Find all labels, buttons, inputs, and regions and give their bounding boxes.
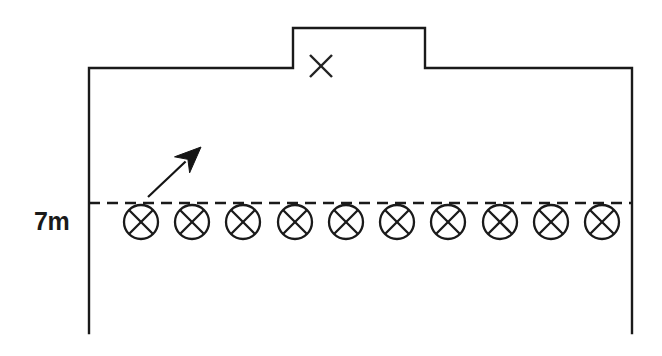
- x-marker-icon: [310, 55, 332, 77]
- conductor-symbol: [431, 205, 465, 239]
- enclosure-outline: [89, 28, 632, 333]
- height-label: 7m: [34, 207, 69, 235]
- conductor-row: [124, 205, 619, 239]
- conductor-symbol: [534, 205, 568, 239]
- conductor-symbol: [585, 205, 619, 239]
- conductor-symbol: [175, 205, 209, 239]
- conductor-symbol: [380, 205, 414, 239]
- conductor-symbol: [124, 205, 158, 239]
- conductor-symbol: [226, 205, 260, 239]
- technical-diagram: 7m: [0, 0, 662, 356]
- conductor-symbol: [483, 205, 517, 239]
- conductor-symbol: [278, 205, 312, 239]
- direction-arrow-icon: [148, 147, 201, 197]
- diagram-canvas: 7m: [0, 0, 662, 356]
- conductor-symbol: [329, 205, 363, 239]
